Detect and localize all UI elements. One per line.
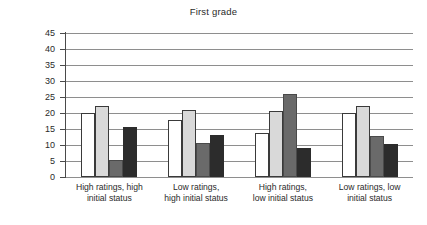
gridline bbox=[66, 177, 413, 178]
bar-series-4-group-4 bbox=[384, 144, 398, 177]
y-axis-tick-label: 45 bbox=[35, 29, 55, 38]
y-axis-tick-label: 20 bbox=[35, 109, 55, 118]
bar-series-2-group-4 bbox=[356, 106, 370, 177]
category-label-line: Low ratings, low bbox=[318, 182, 421, 193]
bar-series-3-group-2 bbox=[196, 143, 210, 177]
chart-title: First grade bbox=[0, 6, 427, 17]
category-label-4: Low ratings, lowinitial status bbox=[318, 182, 421, 203]
y-axis-tick-label: 10 bbox=[35, 141, 55, 150]
bar-series-2-group-3 bbox=[269, 111, 283, 177]
bar-series-2-group-2 bbox=[182, 110, 196, 177]
bar-series-1-group-3 bbox=[255, 133, 269, 177]
bar-series-3-group-3 bbox=[283, 94, 297, 177]
bar-series-3-group-4 bbox=[370, 136, 384, 177]
bar-series-4-group-3 bbox=[297, 148, 311, 177]
bar-series-1-group-2 bbox=[168, 120, 182, 177]
y-axis-tick-label: 30 bbox=[35, 77, 55, 86]
y-axis-tick-label: 35 bbox=[35, 61, 55, 70]
bar-series-4-group-2 bbox=[210, 135, 224, 177]
y-axis-tick-label: 40 bbox=[35, 45, 55, 54]
y-axis-tick-label: 5 bbox=[35, 157, 55, 166]
bar-series-4-group-1 bbox=[123, 127, 137, 177]
chart-container: First grade Percentage of time 051015202… bbox=[0, 0, 427, 225]
bar-series-1-group-1 bbox=[81, 113, 95, 177]
y-axis-tick-label: 25 bbox=[35, 93, 55, 102]
bars-layer bbox=[66, 33, 413, 177]
y-axis-tick-label: 0 bbox=[35, 173, 55, 182]
bar-series-3-group-1 bbox=[109, 160, 123, 177]
bar-series-2-group-1 bbox=[95, 106, 109, 177]
bar-series-1-group-4 bbox=[342, 113, 356, 177]
y-axis-tick-label: 15 bbox=[35, 125, 55, 134]
category-label-line: initial status bbox=[318, 193, 421, 204]
